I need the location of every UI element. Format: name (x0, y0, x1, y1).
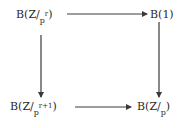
node-bottom-left-suffix: ) (53, 100, 57, 113)
node-bottom-right-sub: p (161, 108, 166, 117)
node-bottom-right: B(Z/p) (137, 101, 170, 113)
node-top-right-text: B(1) (150, 8, 174, 21)
node-bottom-right-prefix: B(Z/ (137, 100, 161, 113)
node-top-left: B(Z/pr) (16, 9, 53, 22)
node-bottom-right-suffix: ) (166, 100, 170, 113)
node-bottom-left-sup: r+1 (39, 102, 53, 110)
commutative-diagram: B(Z/pr) B(1) B(Z/pr+1) B(Z/p) (0, 0, 192, 128)
node-top-right: B(1) (150, 9, 174, 20)
node-top-left-sup: r (45, 10, 48, 18)
node-top-left-suffix: ) (48, 8, 52, 21)
node-bottom-left-prefix: B(Z/ (10, 100, 34, 113)
node-bottom-left: B(Z/pr+1) (10, 101, 57, 114)
node-top-left-prefix: B(Z/ (16, 8, 40, 21)
